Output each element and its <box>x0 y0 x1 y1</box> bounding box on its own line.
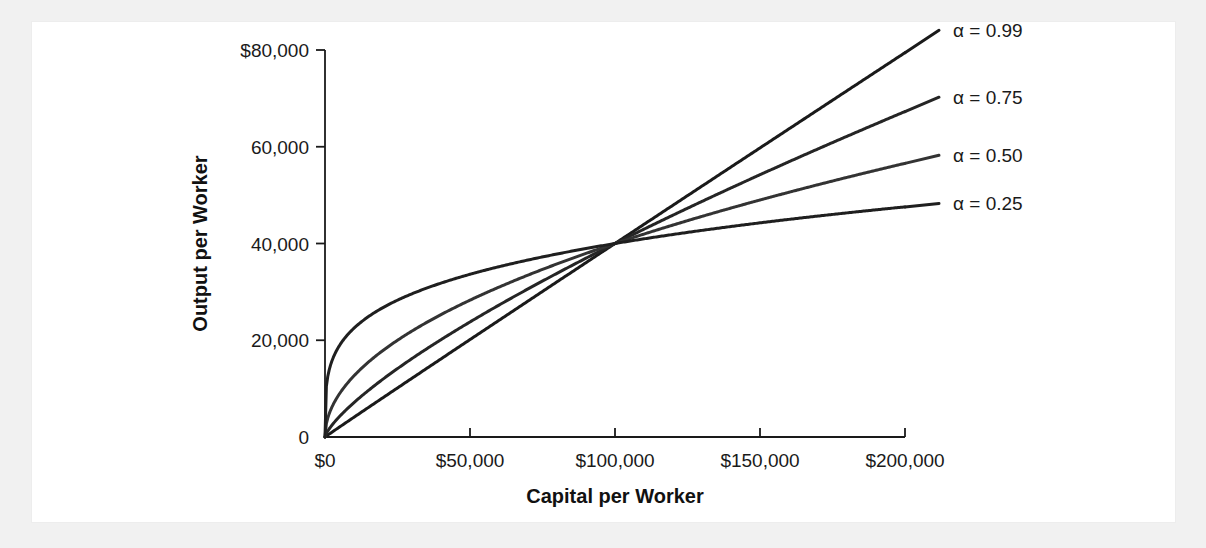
legend-label: α = 0.99 <box>953 22 1023 41</box>
legend-label: α = 0.50 <box>953 145 1023 166</box>
production-function-chart: 020,00040,00060,000$80,000 $0$50,000$100… <box>32 22 1175 522</box>
x-tick-label: $150,000 <box>720 450 799 471</box>
figure-panel: 020,00040,00060,000$80,000 $0$50,000$100… <box>32 22 1175 522</box>
y-tick-label: 20,000 <box>251 330 309 351</box>
figure-root: 020,00040,00060,000$80,000 $0$50,000$100… <box>0 0 1206 548</box>
chart-legend: α = 0.99α = 0.75α = 0.50α = 0.25 <box>905 22 1023 214</box>
legend-line-swatch <box>905 30 939 52</box>
series-curves <box>325 53 905 437</box>
series-curve <box>325 163 905 437</box>
legend-line-swatch <box>905 155 939 163</box>
y-tick-label: 40,000 <box>251 234 309 255</box>
legend-line-swatch <box>905 203 939 206</box>
x-tick-label: $200,000 <box>865 450 944 471</box>
legend-label: α = 0.25 <box>953 193 1023 214</box>
x-axis-title: Capital per Worker <box>526 485 704 507</box>
y-tick-label: 0 <box>298 427 309 448</box>
y-tick-label: 60,000 <box>251 137 309 158</box>
x-tick-label: $0 <box>314 450 335 471</box>
legend-line-swatch <box>905 97 939 111</box>
y-axis-title: Output per Worker <box>189 155 211 332</box>
series-curve <box>325 207 905 437</box>
x-tick-label: $50,000 <box>436 450 505 471</box>
series-curve <box>325 112 905 437</box>
legend-label: α = 0.75 <box>953 87 1023 108</box>
x-axis-tick-labels: $0$50,000$100,000$150,000$200,000 <box>314 450 944 471</box>
y-axis-tick-labels: 020,00040,00060,000$80,000 <box>240 40 309 448</box>
x-tick-label: $100,000 <box>575 450 654 471</box>
y-tick-label: $80,000 <box>240 40 309 61</box>
